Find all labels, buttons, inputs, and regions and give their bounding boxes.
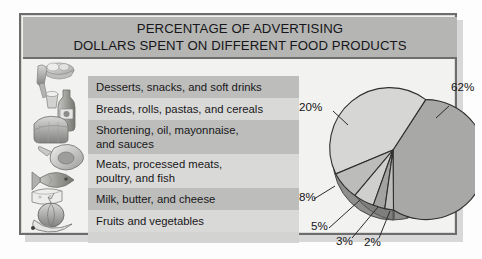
advertising-dollars-pie-figure: PERCENTAGE OF ADVERTISING DOLLARS SPENT … [0, 0, 482, 259]
pie-label-3: 3% [336, 235, 353, 247]
ham-icon [38, 144, 83, 170]
pie-chart: 62% 20% 8% 5% 3% 2% [299, 73, 475, 245]
pie-label-8: 8% [299, 191, 316, 203]
legend-item-shortening[interactable]: Shortening, oil, mayonnaise, and sauces [88, 120, 299, 154]
cheese-block-icon [32, 189, 62, 205]
legend-item-label: Desserts, snacks, and soft drinks [96, 80, 262, 94]
food-illustration-strip [26, 60, 88, 235]
legend-item-milk[interactable]: Milk, butter, and cheese [88, 188, 299, 210]
legend-item-meats[interactable]: Meats, processed meats, poultry, and fis… [88, 154, 299, 188]
figure-frame: PERCENTAGE OF ADVERTISING DOLLARS SPENT … [19, 13, 457, 235]
legend-item-fruits[interactable]: Fruits and vegetables [88, 210, 299, 232]
legend-item-desserts[interactable]: Desserts, snacks, and soft drinks [88, 76, 299, 98]
legend-item-label: Breads, rolls, pastas, and cereals [96, 102, 263, 116]
pie-label-62: 62% [451, 81, 474, 93]
pie-label-2: 2% [364, 236, 381, 248]
fish-icon [32, 172, 74, 190]
figure-title-line-1: PERCENTAGE OF ADVERTISING [137, 20, 343, 37]
bread-loaf-icon [34, 116, 68, 143]
legend-item-label: Milk, butter, and cheese [96, 192, 215, 206]
ice-cream-cake-icon [44, 63, 74, 79]
leader-8 [314, 186, 335, 199]
figure-title-line-2: DOLLARS SPENT ON DIFFERENT FOOD PRODUCTS [73, 37, 406, 54]
figure-title-band: PERCENTAGE OF ADVERTISING DOLLARS SPENT … [23, 17, 457, 59]
pie-label-5: 5% [311, 220, 328, 232]
legend-item-label: Shortening, oil, mayonnaise, and sauces [96, 123, 239, 151]
legend-item-label: Fruits and vegetables [96, 214, 204, 228]
ice-cream-cone-icon [37, 65, 47, 98]
legend-list: Desserts, snacks, and soft drinks Breads… [88, 76, 299, 243]
leader-5 [329, 200, 360, 228]
pie-label-20: 20% [299, 101, 322, 113]
legend-item-label: Meats, processed meats, poultry, and fis… [96, 157, 222, 185]
legend-item-breads[interactable]: Breads, rolls, pastas, and cereals [88, 98, 299, 120]
